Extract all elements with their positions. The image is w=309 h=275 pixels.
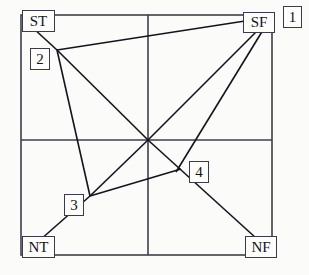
diagram-svg [0,0,309,275]
edge-2-center [57,50,148,140]
edge-center-nf [148,140,256,238]
node-label-nt[interactable]: NT [22,236,55,258]
edge-2-sf [57,17,271,50]
edge-sf-4 [176,17,271,172]
node-label-st[interactable]: ST [22,10,55,32]
node-label-1-text: 1 [289,10,297,25]
node-label-3[interactable]: 3 [64,194,84,216]
diagram-canvas: ST SF NT NF 1 2 3 4 [0,0,309,275]
node-label-nf[interactable]: NF [245,236,277,258]
node-label-nf-text: NF [251,240,270,255]
edge-2-3 [57,50,90,196]
node-label-1[interactable]: 1 [283,6,302,28]
node-label-3-text: 3 [70,198,78,213]
node-label-4[interactable]: 4 [189,161,209,183]
node-label-4-text: 4 [195,165,203,180]
node-label-2[interactable]: 2 [30,48,50,70]
node-label-sf-text: SF [251,15,268,30]
node-label-2-text: 2 [36,52,44,67]
node-label-nt-text: NT [29,240,49,255]
node-label-sf[interactable]: SF [243,12,275,33]
node-label-st-text: ST [30,14,48,29]
edge-center-sf [148,17,271,140]
